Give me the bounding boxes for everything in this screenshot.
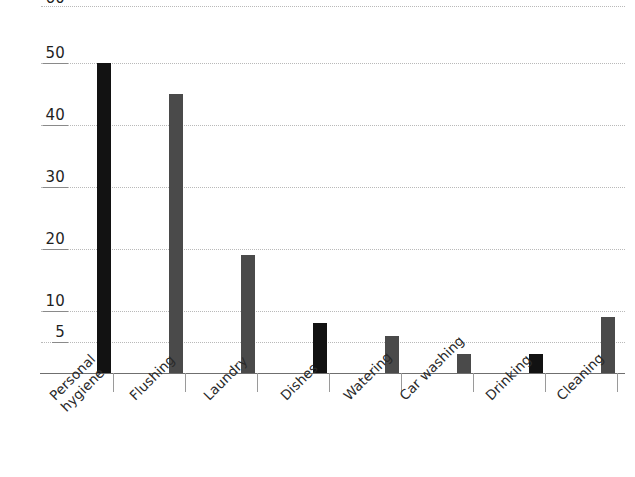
plot-area (40, 0, 625, 373)
bar-chart: 60 50 40 30 20 10 5 Personal hygiene Flu… (0, 0, 635, 477)
x-axis-line (40, 373, 625, 374)
x-axis-tick-mark (473, 373, 474, 392)
bar-flushing[interactable] (169, 94, 183, 373)
bar-cleaning[interactable] (601, 317, 615, 373)
x-axis-tick-mark (329, 373, 330, 392)
bar-car-washing[interactable] (457, 354, 471, 373)
x-axis-tick-mark (545, 373, 546, 392)
x-axis-tick-mark (257, 373, 258, 392)
x-axis-tick-mark (113, 373, 114, 392)
x-axis-tick-mark (185, 373, 186, 392)
x-axis-tick-mark (617, 373, 618, 392)
bar-personal-hygiene[interactable] (97, 63, 111, 373)
